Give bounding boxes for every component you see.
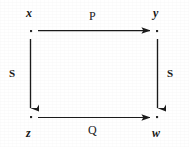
node-label-z: z bbox=[26, 127, 31, 139]
node-dot-x bbox=[30, 30, 32, 32]
node-label-w: w bbox=[152, 127, 160, 139]
node-label-x: x bbox=[26, 7, 32, 19]
node-label-y: y bbox=[153, 7, 158, 19]
node-dot-z bbox=[30, 116, 32, 118]
commutative-diagram-figure: x y z w P Q S S bbox=[0, 0, 189, 147]
node-dot-y bbox=[156, 30, 158, 32]
edge-label-right-s: S bbox=[167, 68, 173, 79]
edge-label-left-s: S bbox=[9, 68, 15, 79]
edge-label-top-p: P bbox=[89, 10, 96, 22]
edge-label-bottom-q: Q bbox=[88, 124, 97, 136]
node-dot-w bbox=[156, 116, 158, 118]
